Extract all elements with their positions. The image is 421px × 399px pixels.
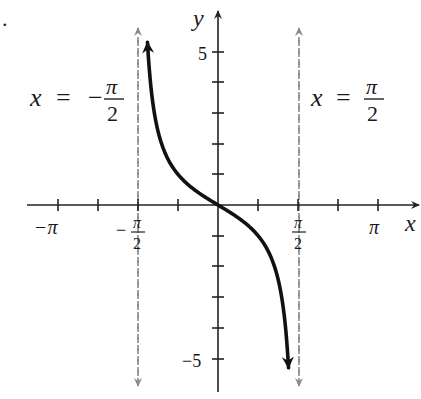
x-axis-label: x	[404, 210, 416, 236]
tangent-graph: . y x 5 −5 −π π −	[0, 0, 421, 399]
svg-text:x: x	[29, 83, 42, 112]
svg-text:−: −	[116, 220, 126, 240]
asymptote-left-label: x = − π 2	[29, 74, 124, 126]
svg-text:π: π	[133, 214, 142, 231]
x-tick-neg-pi-label: −π	[34, 216, 58, 238]
svg-text:π: π	[366, 74, 378, 99]
y-tick-neg5-label: −5	[182, 351, 201, 371]
svg-text:x: x	[310, 83, 323, 112]
svg-text:2: 2	[133, 235, 141, 252]
svg-text:π: π	[106, 74, 118, 99]
x-tick-pi-label: π	[369, 216, 380, 238]
svg-text:=: =	[336, 83, 351, 112]
svg-text:2: 2	[294, 235, 302, 252]
x-tick-neg-half-pi-label: − π 2	[116, 214, 145, 252]
asymptote-right-label: x = π 2	[310, 74, 384, 126]
svg-text:=: =	[56, 83, 71, 112]
y-axis-label: y	[191, 5, 204, 31]
svg-text:2: 2	[107, 101, 118, 126]
svg-text:−: −	[88, 83, 103, 112]
y-tick-5-label: 5	[198, 44, 207, 64]
bullet-mark: .	[2, 6, 8, 31]
svg-text:π: π	[294, 214, 303, 231]
svg-text:2: 2	[367, 101, 378, 126]
